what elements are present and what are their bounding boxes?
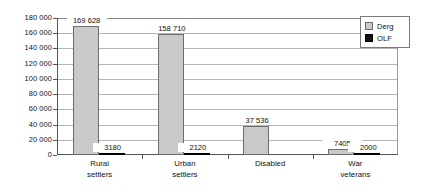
bars-layer (57, 18, 398, 155)
y-tick-label: 80 000 (0, 90, 52, 98)
bar-olf-0 (99, 153, 125, 156)
x-category-label: Rural settlers (57, 159, 142, 180)
y-tick-label: 140 000 (0, 44, 52, 52)
legend-label-olf: OLF (377, 34, 392, 43)
legend-item-olf[interactable]: OLF (365, 32, 409, 44)
x-category-label: Urban settlers (142, 159, 227, 180)
value-label-olf-1: 2120 (178, 143, 218, 152)
value-label-olf-3: 2000 (348, 143, 388, 152)
bar-olf-3 (354, 153, 380, 156)
bar-derg-2 (243, 126, 269, 155)
value-label-derg-0: 169 628 (67, 16, 107, 25)
y-tick-mark (53, 155, 57, 156)
value-label-derg-1: 158 710 (152, 24, 192, 33)
legend-label-derg: Derg (377, 22, 393, 31)
legend-swatch-derg (365, 22, 373, 30)
y-tick-label: 40 000 (0, 121, 52, 129)
bar-derg-1 (158, 34, 184, 155)
value-label-derg-2: 37 536 (237, 116, 277, 125)
y-tick-label: 180 000 (0, 14, 52, 22)
y-tick-label: 0 (0, 151, 52, 159)
value-label-olf-0: 3180 (93, 143, 133, 152)
legend-swatch-olf (365, 34, 373, 42)
y-tick-label: 20 000 (0, 136, 52, 144)
bar-derg-0 (73, 26, 99, 155)
y-tick-label: 60 000 (0, 105, 52, 113)
legend-item-derg[interactable]: Derg (365, 20, 409, 32)
y-tick-label: 160 000 (0, 29, 52, 37)
x-category-label: Disabled (228, 159, 313, 170)
bar-chart: 020 00040 00060 00080 000100 000120 0001… (0, 0, 430, 191)
y-tick-label: 120 000 (0, 60, 52, 68)
y-tick-label: 100 000 (0, 75, 52, 83)
bar-olf-1 (184, 153, 210, 156)
x-category-label: War veterans (313, 159, 398, 180)
legend[interactable]: Derg OLF (360, 16, 410, 48)
